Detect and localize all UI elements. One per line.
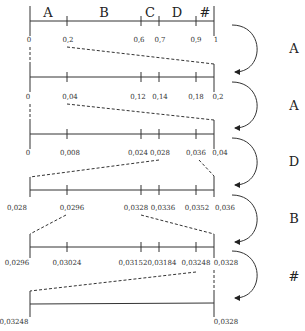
symbol-label-b: B: [99, 5, 109, 20]
step-label: A: [288, 41, 299, 56]
tick-label: 0,0336: [151, 204, 176, 212]
tick-label: 0,03248: [0, 318, 28, 326]
tick-label: 0: [26, 93, 30, 101]
symbol-label-end: #: [200, 5, 211, 20]
tick-label: 0,2: [212, 93, 223, 101]
tick-labels-row-1: 0 0,2 0,6 0,7 0,9 1: [27, 36, 218, 44]
tick-label: 0,036: [215, 204, 236, 212]
tick-label: 0: [26, 149, 30, 157]
tick-label: 0,7: [154, 36, 165, 44]
step-label: A: [288, 98, 299, 113]
step-arrows: [232, 25, 257, 298]
tick-label: 0,008: [60, 149, 80, 157]
tick-label: 0,9: [190, 36, 201, 44]
step-arrow-icon: [232, 82, 257, 128]
tick-label: 0,0296: [60, 204, 85, 212]
tick-label: 0,0352: [185, 204, 210, 212]
tick-label: 0,0328: [124, 204, 149, 212]
tick-labels-row-2: 0 0,04 0,12 0,14 0,18 0,2: [26, 93, 224, 101]
symbol-label-a: A: [42, 5, 53, 20]
symbol-label-c: C: [145, 5, 155, 20]
step-labels: A A D B #: [288, 41, 299, 284]
interval-row-4: [30, 176, 214, 197]
step-label: #: [289, 269, 300, 284]
step-label: D: [289, 154, 299, 169]
tick-label: 0,03024: [53, 259, 82, 267]
tick-labels-row-5: 0,0296 0,03024 0,03152 0,03184 0,03248 0…: [5, 259, 239, 267]
tick-label: 0,04: [62, 93, 78, 101]
zoom-projection-1: [30, 47, 214, 64]
tick-label: 1: [214, 36, 218, 44]
tick-label: 0,028: [150, 149, 170, 157]
tick-label: 0,036: [186, 149, 207, 157]
tick-label: 0,18: [188, 93, 204, 101]
interval-row-1: [30, 6, 214, 36]
interval-row-6: [30, 290, 214, 317]
tick-labels-row-6: 0,03248 0,0328: [0, 318, 238, 326]
step-arrow-icon: [232, 195, 257, 242]
tick-label: 0,04: [212, 149, 228, 157]
tick-label: 0,14: [152, 93, 168, 101]
tick-label: 0,0296: [5, 259, 30, 267]
tick-label: 0,03152: [119, 259, 148, 267]
tick-label: 0,028: [7, 204, 27, 212]
interval-row-5: [30, 234, 214, 258]
tick-label: 0,12: [130, 93, 146, 101]
zoom-projection-3: [30, 160, 214, 177]
zoom-projection-4: [30, 215, 214, 234]
symbol-labels: A B C D #: [42, 5, 210, 20]
tick-label: 0,6: [133, 36, 145, 44]
tick-label: 0,03248: [182, 259, 211, 267]
interval-diagram: A B C D # 0 0,2 0,6 0,7 0,9 1 0 0,04 0,1…: [0, 0, 305, 331]
tick-labels-row-4: 0,028 0,0296 0,0328 0,0336 0,0352 0,036: [7, 204, 236, 212]
symbol-label-d: D: [172, 5, 182, 20]
tick-label: 0,03184: [148, 259, 177, 267]
step-label: B: [289, 211, 299, 226]
step-arrow-icon: [232, 25, 257, 72]
tick-label: 0,024: [128, 149, 149, 157]
tick-labels-row-3: 0 0,008 0,024 0,028 0,036 0,04: [26, 149, 229, 157]
tick-label: 0,0328: [214, 259, 239, 267]
tick-label: 0,0328: [214, 318, 239, 326]
step-arrow-icon: [232, 138, 257, 185]
interval-row-3: [30, 119, 214, 149]
interval-row-2: [30, 62, 214, 92]
zoom-projection-2: [30, 104, 214, 120]
tick-label: 0,2: [62, 36, 73, 44]
tick-label: 0: [27, 36, 31, 44]
zoom-projection-5: [30, 270, 214, 291]
